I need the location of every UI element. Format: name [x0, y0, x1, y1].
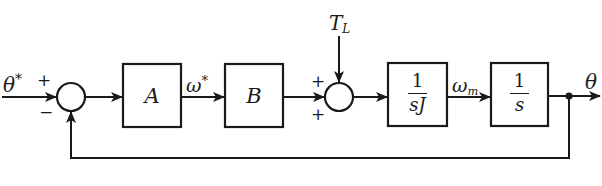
- block-diagram: θ* + − A ω* B TL + + 1 sJ ωm 1 s θ: [0, 0, 602, 186]
- omega-ref-superscript: *: [202, 73, 209, 88]
- omega-m-subscript: m: [468, 84, 479, 98]
- junction-2-upper-plus-sign: +: [311, 73, 325, 90]
- input-label: θ*: [3, 72, 22, 95]
- integrator-denominator: s: [515, 94, 524, 115]
- block-integrator-label: 1 s: [491, 72, 548, 115]
- inertia-denominator: sJ: [409, 94, 425, 115]
- omega-ref-symbol: ω: [186, 74, 202, 96]
- junction-2-lower-plus-sign: +: [311, 106, 325, 123]
- disturbance-symbol: T: [329, 11, 342, 35]
- summing-junction-2: [325, 83, 353, 111]
- block-b-label: B: [225, 64, 283, 127]
- junction-1-plus-sign: +: [37, 72, 51, 89]
- junction-1-minus-sign: −: [39, 104, 53, 121]
- integrator-numerator: 1: [510, 72, 529, 94]
- disturbance-subscript: L: [342, 22, 350, 36]
- disturbance-label: TL: [329, 13, 350, 35]
- omega-m-symbol: ω: [452, 74, 468, 96]
- block-a-label: A: [123, 64, 181, 127]
- omega-m-label: ωm: [452, 76, 478, 97]
- input-superscript: *: [15, 71, 22, 87]
- inertia-numerator: 1: [408, 72, 427, 94]
- input-symbol: θ: [3, 73, 15, 97]
- block-inertia-label: 1 sJ: [388, 72, 447, 115]
- omega-ref-label: ω*: [186, 74, 208, 95]
- output-label: θ: [585, 72, 597, 92]
- summing-junction-1: [57, 83, 85, 111]
